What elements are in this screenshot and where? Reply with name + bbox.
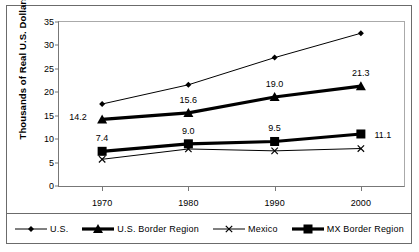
legend-item-u-s-border-region[interactable]: U.S. Border Region [81, 222, 199, 236]
data-point-label: 7.4 [96, 133, 109, 143]
data-point-label: 15.6 [180, 95, 198, 105]
series-mx-border-region [98, 129, 366, 155]
y-axis-tick-mark [55, 92, 59, 93]
x-axis-tick-mark [275, 186, 276, 191]
y-axis-tick-mark [55, 22, 59, 23]
legend-item-u-s[interactable]: U.S. [14, 222, 68, 236]
x-marker-icon [212, 222, 246, 236]
data-point-label: 9.0 [182, 126, 195, 136]
chart-figure: Thousands of Real U.S. Dollars 051015202… [0, 0, 419, 252]
y-axis-tick-mark [55, 45, 59, 46]
legend-item-mexico[interactable]: Mexico [212, 222, 278, 236]
y-axis-tick-mark [55, 162, 59, 163]
diamond-marker-icon [14, 222, 48, 236]
x-axis-tick-label: 2000 [351, 198, 371, 208]
plot-area: 05101520253035197019801990200014.215.619… [58, 21, 405, 187]
triangle-marker-icon [81, 222, 115, 236]
series-u-s [99, 30, 364, 107]
y-axis-title: Thousands of Real U.S. Dollars [17, 0, 28, 148]
x-axis-tick-label: 1980 [178, 198, 198, 208]
legend-item-mx-border-region[interactable]: MX Border Region [291, 222, 404, 236]
data-point-label: 21.3 [352, 68, 370, 78]
x-axis-tick-label: 1990 [265, 198, 285, 208]
series-canvas [59, 22, 404, 186]
series-u-s-border-region [97, 81, 366, 123]
x-axis-tick-label: 1970 [92, 198, 112, 208]
x-axis-tick-mark [188, 186, 189, 191]
x-axis-tick-mark [102, 186, 103, 191]
y-axis-tick-mark [55, 186, 59, 187]
legend-item-label: U.S. [50, 224, 68, 234]
data-point-label: 11.1 [374, 130, 391, 140]
legend-item-label: MX Border Region [327, 224, 404, 234]
y-axis-tick-mark [55, 115, 59, 116]
y-axis-tick-mark [55, 139, 59, 140]
square-marker-icon [291, 222, 325, 236]
legend-item-label: U.S. Border Region [117, 224, 199, 234]
x-axis-tick-mark [361, 186, 362, 191]
data-point-label: 19.0 [266, 79, 284, 89]
legend-item-label: Mexico [248, 224, 278, 234]
y-axis-tick-mark [55, 68, 59, 69]
chart-legend: U.S.U.S. Border RegionMexicoMX Border Re… [7, 213, 411, 243]
data-point-label: 9.5 [268, 123, 281, 133]
data-point-label: 14.2 [69, 112, 87, 122]
